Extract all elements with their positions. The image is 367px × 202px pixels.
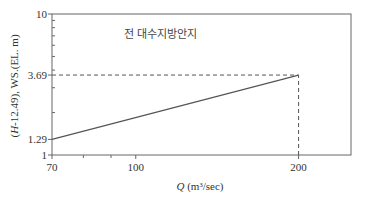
x-tick-label: 200 bbox=[290, 161, 307, 173]
y-tick-label: 1 bbox=[42, 149, 48, 161]
chart-annotation: 전 대수지방안지 bbox=[124, 28, 197, 41]
y-tick-label: 1.29 bbox=[28, 133, 48, 145]
y-axis-label: (H-12.49), WS.(EL. m) bbox=[8, 34, 21, 137]
x-tick-label: 100 bbox=[128, 161, 145, 173]
y-tick-label: 3.69 bbox=[28, 69, 48, 81]
x-tick-label: 70 bbox=[47, 161, 59, 173]
data-line bbox=[52, 75, 299, 139]
x-axis-label: Q (m³/sec) bbox=[177, 180, 224, 193]
plot-frame bbox=[52, 14, 351, 155]
chart: 11.293.691070100200전 대수지방안지Q (m³/sec)(H-… bbox=[0, 0, 367, 202]
y-tick-label: 10 bbox=[36, 8, 48, 20]
